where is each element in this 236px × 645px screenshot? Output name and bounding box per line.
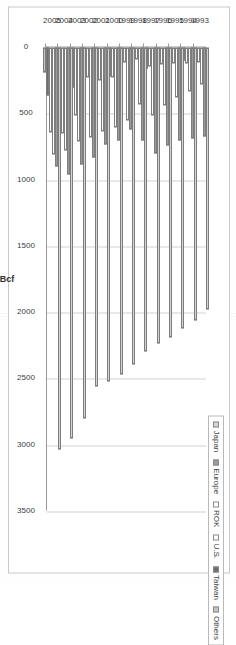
bar-europe-1994 [191, 47, 194, 138]
bar-japan-1995 [181, 47, 184, 328]
bar-europe-2000 [117, 47, 120, 140]
x-tick-label-500: 500 [12, 108, 40, 116]
bar-japan-1998 [144, 47, 147, 351]
bar-japan-2000 [120, 47, 123, 374]
y-tick-1993 [193, 43, 194, 47]
x-tick-label-3000: 3000 [12, 440, 40, 448]
bar-europe-2005 [55, 47, 58, 166]
bar-group-2005 [46, 47, 58, 510]
x-tick-label-1000: 1000 [12, 175, 40, 183]
y-tick-2005 [45, 43, 46, 47]
bar-europe-2003 [80, 47, 83, 164]
bar-japan-2001 [107, 47, 110, 381]
legend-label-rok: ROK [212, 510, 220, 527]
bar-europe-2001 [104, 47, 107, 144]
bar-us-2001 [98, 47, 101, 80]
legend-item-others: Others [212, 606, 220, 639]
x-tick-label-2000: 2000 [12, 307, 40, 315]
y-tick-1994 [180, 43, 181, 47]
bar-japan-1996 [169, 47, 172, 337]
bar-rok-1998 [138, 47, 141, 104]
bar-japan-2005 [58, 47, 61, 449]
legend-label-us: U.S. [212, 543, 220, 559]
legend-swatch-japan-icon [213, 421, 219, 427]
bar-europe-1995 [178, 47, 181, 140]
bar-europe-2002 [92, 47, 95, 157]
bar-us-1994 [185, 47, 188, 63]
y-tick-1997 [143, 43, 144, 47]
bar-rok-2003 [77, 47, 80, 141]
bar-us-1998 [135, 47, 138, 59]
x-tick-label-0: 0 [12, 42, 40, 50]
bar-japan-2004 [70, 47, 73, 438]
legend-item-rok: ROK [212, 501, 220, 527]
bar-rok-1999 [126, 47, 129, 120]
bar-japan-1999 [132, 47, 135, 364]
legend-label-others: Others [212, 615, 220, 639]
x-tick-label-3500: 3500 [12, 506, 40, 514]
y-tick-1995 [168, 43, 169, 47]
bar-rok-1995 [175, 47, 178, 97]
legend-swatch-rok-icon [213, 501, 219, 507]
bar-us-1995 [172, 47, 175, 63]
y-tick-2001 [94, 43, 95, 47]
legend-label-europe: Europe [212, 468, 220, 494]
bar-us-1997 [148, 47, 151, 66]
legend-swatch-europe-icon [213, 459, 219, 465]
bar-us-2003 [74, 47, 77, 115]
bar-japan-1997 [157, 47, 160, 343]
bar-others-2005 [43, 47, 46, 72]
bar-japan-1994 [194, 47, 197, 320]
bar-rok-1997 [151, 47, 154, 115]
bar-japan-2002 [95, 47, 98, 386]
bar-us-1999 [123, 47, 126, 62]
chart-legend: Japan Europe ROK U.S. Taiwan Others [208, 415, 224, 645]
bar-europe-2004 [67, 47, 70, 174]
bar-us-2004 [61, 47, 64, 133]
y-tick-1996 [156, 43, 157, 47]
legend-swatch-us-icon [213, 534, 219, 540]
legend-item-japan: Japan [212, 421, 220, 452]
y-tick-2004 [57, 43, 58, 47]
legend-label-japan: Japan [212, 430, 220, 452]
bar-us-2002 [86, 47, 89, 77]
y-tick-2002 [82, 43, 83, 47]
y-tick-2003 [70, 43, 71, 47]
legend-swatch-others-icon [213, 606, 219, 612]
year-label-2005: 2005 [38, 16, 66, 24]
legend-item-us: U.S. [212, 534, 220, 559]
bar-europe-1996 [166, 47, 169, 145]
legend-item-taiwan: Taiwan [212, 566, 220, 600]
plot-area [46, 46, 206, 510]
bar-rok-1994 [188, 47, 191, 91]
bar-us-2000 [111, 47, 114, 77]
bar-japan-1993 [206, 47, 209, 309]
bar-rok-1993 [200, 47, 203, 84]
y-tick-2000 [107, 43, 108, 47]
x-tick-label-1500: 1500 [12, 241, 40, 249]
x-tick-label-2500: 2500 [12, 373, 40, 381]
legend-label-taiwan: Taiwan [212, 575, 220, 600]
bar-europe-1999 [129, 47, 132, 129]
bar-us-1993 [197, 47, 200, 62]
bar-taiwan-2005 [46, 47, 49, 95]
legend-swatch-taiwan-icon [213, 566, 219, 572]
y-tick-1998 [131, 43, 132, 47]
bar-us-2005 [49, 47, 52, 132]
bar-rok-2002 [89, 47, 92, 137]
bar-rok-2000 [114, 47, 117, 127]
bar-rok-2004 [64, 47, 67, 150]
bar-rok-1996 [163, 47, 166, 105]
axis-title-bcf: Bcf [0, 273, 27, 283]
bar-rok-2001 [101, 47, 104, 131]
bar-japan-2003 [83, 47, 86, 418]
bar-europe-1993 [203, 47, 206, 136]
legend-item-europe: Europe [212, 459, 220, 494]
gridline-3500 [47, 511, 206, 512]
bar-us-1996 [160, 47, 163, 64]
bar-rok-2005 [52, 47, 55, 154]
bar-europe-1998 [141, 47, 144, 140]
bar-europe-1997 [154, 47, 157, 153]
